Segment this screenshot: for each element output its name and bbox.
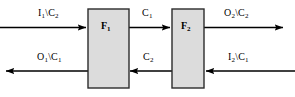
signal-label-input-1: I1\C2 bbox=[38, 8, 59, 18]
diagram-canvas: F1 F2 I1\C2 C1 O2\C2 O1\C1 C2 I2\C1 bbox=[0, 0, 295, 97]
block-f2-label: F2 bbox=[181, 21, 191, 31]
signal-label-inter-c2: C2 bbox=[143, 52, 154, 62]
block-f1-label: F1 bbox=[101, 21, 111, 31]
signal-label-input-2: I2\C1 bbox=[228, 52, 249, 62]
signal-label-inter-c1: C1 bbox=[142, 8, 153, 18]
signal-label-output-2: O2\C2 bbox=[224, 8, 249, 18]
signal-label-output-1: O1\C1 bbox=[37, 52, 62, 62]
